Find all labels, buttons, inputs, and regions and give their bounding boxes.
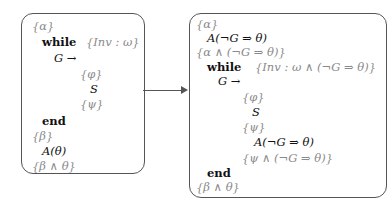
statement-s: S (90, 82, 98, 96)
postcondition-beta-and-theta: {β ∧ θ} (196, 180, 240, 194)
end-keyword: end (207, 166, 231, 180)
assert-not-g-implies-theta-inner: A(¬G ⇒ θ) (254, 135, 314, 149)
arrow-head-icon (181, 86, 188, 94)
guard: G → (218, 74, 240, 88)
left-program-box: {α} while {Inv : ω} G → {φ} S {ψ} end {β… (21, 13, 145, 174)
precondition-alpha: {α} (32, 19, 54, 33)
postcondition-psi: {ψ} (242, 120, 266, 134)
while-keyword: while (42, 35, 76, 49)
invariant-annotation: {Inv : ω ∧ (¬G ⇒ θ)} (255, 60, 376, 74)
assert-not-g-implies-theta: A(¬G ⇒ θ) (207, 31, 267, 45)
precondition-phi: {φ} (242, 90, 265, 104)
end-keyword: end (42, 114, 66, 128)
statement-s: S (252, 105, 260, 119)
postcondition-psi: {ψ} (80, 97, 104, 111)
invariant-annotation: {Inv : ω} (86, 35, 140, 49)
precondition-alpha: {α} (196, 17, 218, 31)
precondition-phi: {φ} (80, 67, 103, 81)
guard: G → (54, 51, 76, 65)
right-program-box: {α} A(¬G ⇒ θ) {α ∧ (¬G ⇒ θ)} while {Inv … (189, 13, 387, 198)
alpha-and-implication: {α ∧ (¬G ⇒ θ)} (196, 45, 286, 59)
psi-and-implication: {ψ ∧ (¬G ⇒ θ)} (242, 151, 333, 165)
assert-theta: A(θ) (42, 144, 66, 158)
transform-arrow-line (143, 90, 185, 91)
postcondition-beta-and-theta: {β ∧ θ} (32, 159, 76, 173)
postcondition-beta: {β} (32, 129, 53, 143)
while-keyword: while (207, 60, 241, 74)
